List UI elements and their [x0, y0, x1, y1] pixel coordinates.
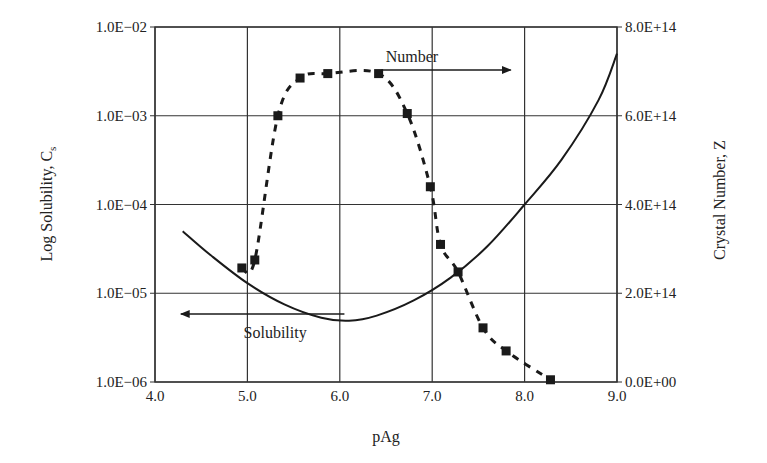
y-left-axis-label-main: Log Solubility, C [38, 151, 56, 262]
number-marker-square [403, 109, 412, 118]
number-marker-square [250, 255, 259, 264]
y-left-axis-label: Log Solubility, Cs [38, 147, 58, 262]
number-marker-square [479, 323, 488, 332]
number-marker-square [296, 74, 305, 83]
solubility-annotation-label: Solubility [244, 324, 307, 342]
annotations: NumberSolubility [181, 48, 511, 342]
number-marker-square [237, 263, 246, 272]
y-left-tick-label: 1.0E−06 [96, 374, 148, 390]
x-axis-label: pAg [372, 428, 400, 446]
y-left-axis-label-sub: s [46, 147, 58, 151]
number-marker-square [454, 267, 463, 276]
y-left-tick-label: 1.0E−05 [96, 285, 147, 301]
x-axis-ticks: 4.05.06.07.08.09.0 [146, 388, 627, 404]
y-right-axis-label: Crystal Number, Z [711, 140, 729, 260]
x-tick-label: 6.0 [330, 388, 349, 404]
y-left-axis-ticks: 1.0E−061.0E−051.0E−041.0E−031.0E−02 [96, 19, 148, 390]
number-marker-square [546, 375, 555, 384]
x-tick-label: 9.0 [608, 388, 627, 404]
y-right-tick-label: 4.0E+14 [625, 197, 677, 213]
y-left-tick-label: 1.0E−04 [96, 197, 148, 213]
y-right-tick-label: 6.0E+14 [625, 108, 677, 124]
x-tick-label: 8.0 [515, 388, 534, 404]
number-marker-square [273, 111, 282, 120]
chart: 4.05.06.07.08.09.0 1.0E−061.0E−051.0E−04… [0, 0, 767, 463]
y-right-tick-label: 0.0E+00 [625, 374, 676, 390]
number-marker-square [323, 69, 332, 78]
x-tick-label: 5.0 [238, 388, 257, 404]
y-left-tick-label: 1.0E−03 [96, 108, 147, 124]
y-right-axis-ticks: 0.0E+002.0E+144.0E+146.0E+148.0E+14 [625, 19, 677, 390]
grid-lines [150, 27, 622, 382]
number-marker-square [436, 240, 445, 249]
y-right-tick-label: 2.0E+14 [625, 285, 677, 301]
number-marker-square [502, 346, 511, 355]
number-marker-square [426, 182, 435, 191]
number-annotation-label: Number [386, 48, 439, 65]
x-tick-label: 7.0 [423, 388, 442, 404]
x-tick-label: 4.0 [146, 388, 165, 404]
y-right-tick-label: 8.0E+14 [625, 19, 677, 35]
y-left-tick-label: 1.0E−02 [96, 19, 147, 35]
